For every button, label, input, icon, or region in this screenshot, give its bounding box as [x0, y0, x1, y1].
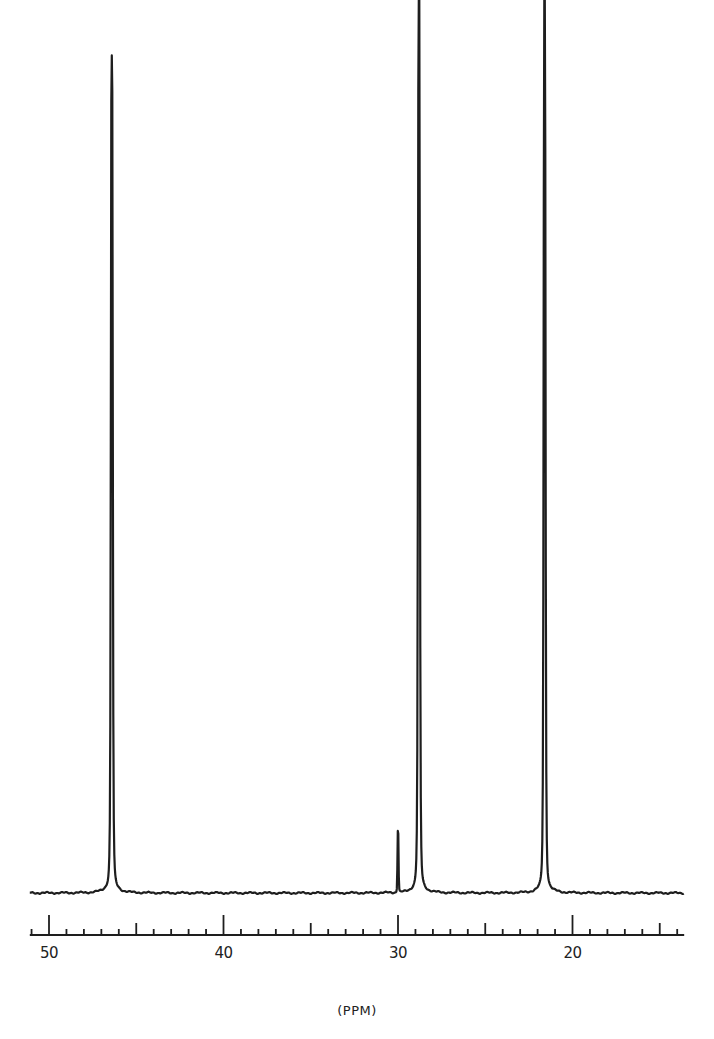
x-axis-title: (PPM) [337, 1003, 377, 1018]
tick-label-40: 40 [214, 944, 232, 962]
tick-label-20: 20 [563, 944, 581, 962]
spectrum-trace [30, 0, 684, 894]
tick-label-30: 30 [389, 944, 407, 962]
nmr-spectrum-plot [0, 0, 714, 1039]
spectrum-line [30, 0, 684, 894]
tick-label-50: 50 [40, 944, 58, 962]
ppm-axis [30, 915, 684, 935]
